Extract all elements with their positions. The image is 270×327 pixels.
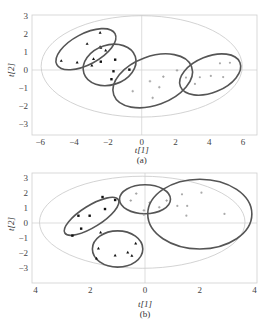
chart-panel-b: 3210−1−2−342024t[1]t[2](b) [6,173,257,319]
pca-score-plots: 3210−1−2−3−6−4−20246t[1]t[2](a)3210−1−2−… [0,0,270,327]
group-ellipse [174,46,247,104]
group-ellipse [148,179,252,249]
dot-marker [181,193,183,195]
dot-marker [200,192,202,194]
triangle-marker [126,251,129,254]
dot-marker [229,62,231,64]
cross-marker [135,192,138,195]
y-tick-label: 0 [24,65,29,75]
cross-marker [158,86,161,89]
x-tick-label: 4 [252,285,257,295]
plot-frame [32,173,257,283]
y-tick-label: 0 [24,218,29,228]
square-marker [101,196,103,198]
dot-marker [222,76,224,78]
dot-marker [186,205,188,207]
triangle-marker [114,254,117,257]
chart-panel-a: 3210−1−2−3−6−4−20246t[1]t[2](a) [6,11,257,165]
x-tick-label: 2 [198,285,203,295]
x-tick-label: 6 [241,137,246,147]
y-tick-label: −1 [18,233,28,243]
x-tick-label: −2 [103,137,113,147]
dot-marker [185,215,187,217]
square-marker [88,215,90,217]
cross-marker [176,69,179,72]
triangle-marker [99,231,102,234]
cross-marker [158,206,161,209]
triangle-marker [86,42,89,45]
dot-marker [210,75,212,77]
square-marker [114,199,116,201]
y-tick-label: 1 [24,203,29,213]
square-marker [110,78,112,80]
group-ellipse [105,44,200,118]
dot-marker [176,205,178,207]
y-tick-label: 1 [24,47,29,57]
square-marker [128,68,130,70]
y-tick-label: −3 [18,263,28,273]
dot-marker [199,76,201,78]
cross-marker [165,199,168,202]
triangle-marker [134,242,137,245]
y-axis-label: t[2] [6,63,16,78]
dot-marker [185,77,187,79]
square-marker [77,215,79,217]
x-tick-label: −6 [36,137,46,147]
panel-caption: (a) [137,155,147,165]
cross-marker [149,80,152,83]
panel-caption: (b) [140,309,151,319]
triangle-marker [97,247,100,250]
group-ellipse [92,231,142,267]
y-tick-label: −2 [18,101,28,111]
cross-marker [151,97,154,100]
y-tick-label: 3 [24,11,29,21]
x-axis-label: t[1] [138,299,153,309]
y-tick-label: 2 [24,188,29,198]
triangle-marker [76,61,79,64]
triangle-marker [130,254,133,257]
y-tick-label: −1 [18,83,28,93]
square-marker [104,208,106,210]
x-tick-label: −4 [69,137,79,147]
triangle-marker [60,59,63,62]
cross-marker [131,90,134,93]
x-tick-label: 2 [88,285,93,295]
y-axis-label: t[2] [6,217,16,232]
x-tick-label: 4 [207,137,212,147]
y-tick-label: −2 [18,248,28,258]
x-axis-label: t[1] [135,145,150,155]
group-ellipse [59,191,124,243]
x-tick-label: 0 [143,285,148,295]
square-marker [71,234,73,236]
cross-marker [162,75,165,78]
square-marker [112,70,114,72]
dot-marker [194,83,196,85]
group-ellipse [50,20,123,78]
y-tick-label: −3 [18,119,28,129]
triangle-marker [104,49,107,52]
x-tick-label: 2 [173,137,178,147]
y-tick-label: 2 [24,29,29,39]
square-marker [100,60,102,62]
cross-marker [129,199,132,202]
square-marker [114,58,116,60]
dot-marker [219,62,221,64]
dot-marker [223,213,225,215]
triangle-marker [99,31,102,34]
y-tick-label: 3 [24,173,29,183]
x-tick-label: 4 [33,285,38,295]
triangle-marker [92,57,95,60]
square-marker [80,227,82,229]
